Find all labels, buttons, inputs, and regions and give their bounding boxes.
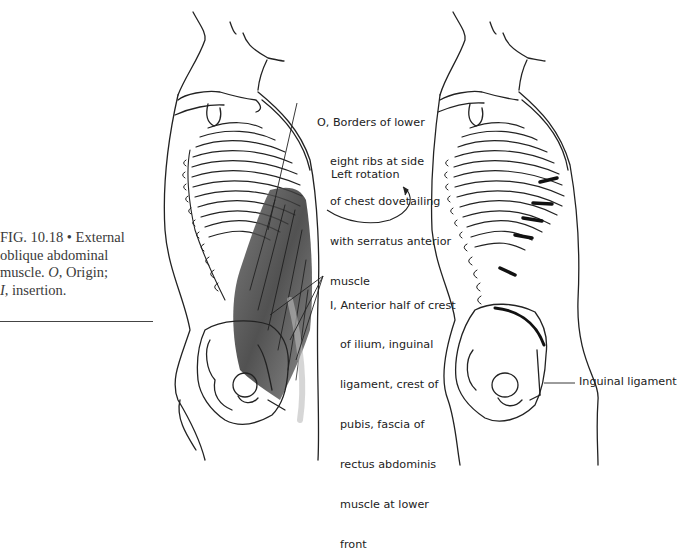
insertion-label-line: front	[330, 538, 456, 551]
insertion-label: I, Anterior half of crest of ilium, ingu…	[330, 272, 456, 552]
origin-label: O, Borders of lower eight ribs at side o…	[317, 89, 451, 302]
insertion-label-line: I, Anterior half of crest	[330, 299, 456, 312]
left-rotation-label: Left rotation	[331, 168, 399, 181]
insertion-label-line: pubis, fascia of	[330, 418, 456, 431]
right-torso-figure	[432, 12, 599, 465]
insertion-label-line: ligament, crest of	[330, 378, 456, 391]
origin-label-line: eight ribs at side	[317, 155, 451, 168]
insertion-label-line: muscle at lower	[330, 498, 456, 511]
insertion-label-line: of ilium, inguinal	[330, 338, 456, 351]
inguinal-ligament-label: Inguinal ligament	[579, 375, 677, 388]
left-torso-figure	[164, 12, 318, 460]
insertion-label-line: rectus abdominis	[330, 458, 456, 471]
origin-label-line: with serratus anterior	[317, 235, 451, 248]
origin-label-line: O, Borders of lower	[317, 116, 451, 129]
origin-label-line: of chest dovetailing	[317, 195, 451, 208]
